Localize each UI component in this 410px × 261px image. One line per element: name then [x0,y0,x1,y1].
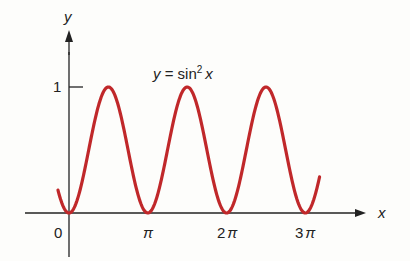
pi-symbol: π [305,224,315,241]
title-eq: = sin [161,65,197,82]
y-axis-label: y [64,9,72,24]
title-exponent: 2 [197,64,203,75]
pi-symbol: π [227,224,237,241]
x-tick-label-0: 0 [54,225,62,240]
x-tick-label-3pi: 3π [295,225,315,240]
chart-canvas [0,0,410,261]
x-tick-label-2pi: 2π [217,225,237,240]
title-lhs: y [153,65,161,82]
y-tick-label-1: 1 [53,79,61,94]
tick-coefficient: 3 [295,224,303,241]
title-var: x [205,65,213,82]
sin-squared-curve [58,87,320,213]
x-tick-label-pi: π [143,225,153,240]
chart-title: y = sin2x [153,66,213,81]
x-axis-arrow-icon [355,209,366,217]
x-axis-label: x [378,205,386,220]
tick-coefficient: 2 [217,224,225,241]
